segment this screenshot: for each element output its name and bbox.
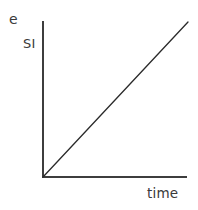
y-axis-label: SI	[23, 37, 36, 50]
plot-canvas	[0, 0, 198, 210]
annotation-label-e: e	[9, 12, 18, 26]
chart-figure: e SI time	[0, 0, 198, 210]
data-line-si-vs-time	[43, 22, 188, 177]
x-axis-label: time	[147, 187, 178, 201]
